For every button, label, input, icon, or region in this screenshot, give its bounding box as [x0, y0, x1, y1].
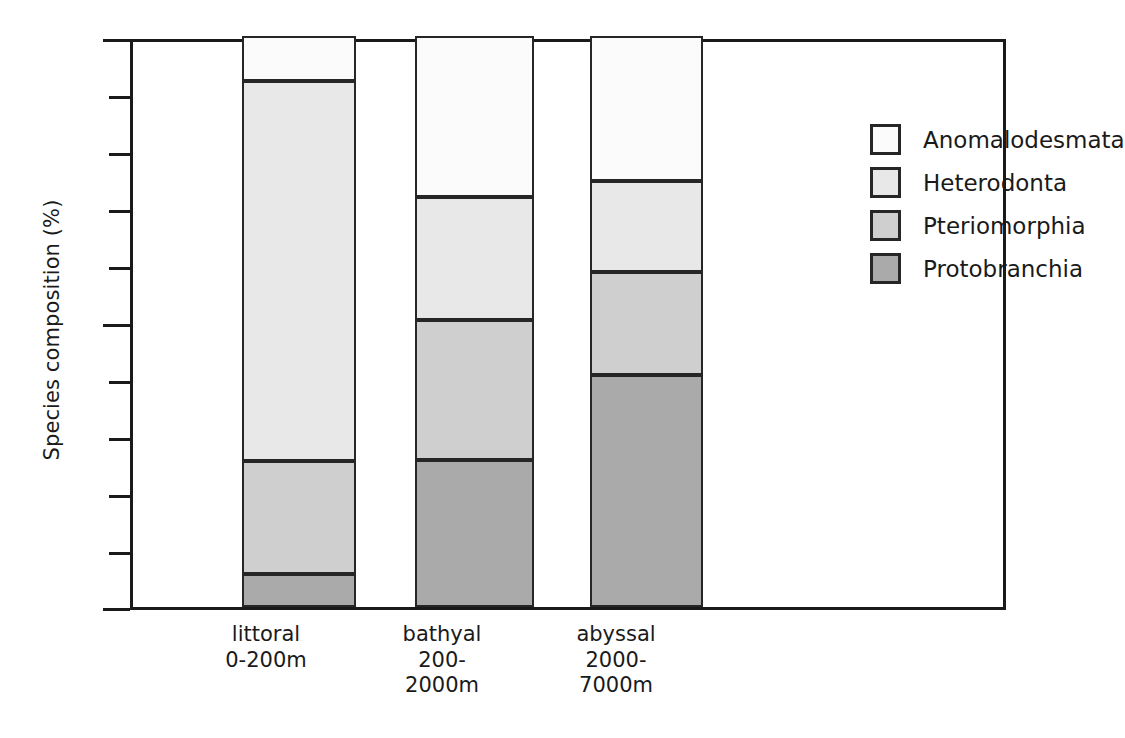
y-tick-30	[109, 438, 130, 441]
bar-littoral[interactable]	[242, 39, 356, 607]
y-tick-60	[109, 267, 130, 270]
y-tick-80	[109, 153, 130, 156]
legend: Anomalodesmata Heterodonta Pteriomorphia…	[870, 118, 1125, 290]
y-tick-10	[109, 552, 130, 555]
x-category-label-bathyal-line1: bathyal	[354, 622, 530, 648]
x-category-label-abyssal-line1: abyssal	[528, 622, 704, 648]
segment-abyssal-anomalodesmata[interactable]	[590, 36, 703, 181]
legend-item-pteriomorphia[interactable]: Pteriomorphia	[870, 204, 1125, 247]
x-category-label-bathyal-line2: 200-	[354, 648, 530, 674]
plot-area: Anomalodesmata Heterodonta Pteriomorphia…	[130, 39, 1006, 610]
segment-littoral-protobranchia[interactable]	[242, 574, 356, 607]
segment-littoral-anomalodesmata[interactable]	[242, 36, 356, 81]
bar-abyssal[interactable]	[590, 39, 703, 607]
x-category-label-bathyal: bathyal 200- 2000m	[354, 622, 530, 699]
legend-swatch-icon-heterodonta	[870, 167, 901, 198]
y-tick-90	[109, 96, 130, 99]
segment-bathyal-heterodonta[interactable]	[415, 197, 534, 320]
y-tick-50	[103, 324, 130, 327]
legend-item-heterodonta[interactable]: Heterodonta	[870, 161, 1125, 204]
x-category-label-abyssal-line3: 7000m	[528, 673, 704, 699]
x-category-label-littoral: littoral 0-200m	[178, 622, 354, 673]
segment-bathyal-pteriomorphia[interactable]	[415, 320, 534, 460]
segment-bathyal-anomalodesmata[interactable]	[415, 36, 534, 197]
legend-swatch-icon-protobranchia	[870, 253, 901, 284]
legend-item-anomalodesmata[interactable]: Anomalodesmata	[870, 118, 1125, 161]
legend-item-protobranchia[interactable]: Protobranchia	[870, 247, 1125, 290]
y-tick-0	[103, 608, 130, 611]
x-category-label-bathyal-line3: 2000m	[354, 673, 530, 699]
segment-littoral-pteriomorphia[interactable]	[242, 461, 356, 574]
y-tick-100	[103, 39, 130, 42]
legend-swatch-icon-pteriomorphia	[870, 210, 901, 241]
x-category-label-littoral-line2: 0-200m	[178, 648, 354, 674]
x-category-label-abyssal: abyssal 2000- 7000m	[528, 622, 704, 699]
x-category-label-littoral-line1: littoral	[178, 622, 354, 648]
segment-abyssal-heterodonta[interactable]	[590, 181, 703, 272]
y-tick-40	[109, 381, 130, 384]
bar-bathyal[interactable]	[415, 39, 534, 607]
legend-label-protobranchia: Protobranchia	[923, 256, 1083, 282]
segment-abyssal-protobranchia[interactable]	[590, 375, 703, 607]
y-tick-20	[109, 495, 130, 498]
segment-abyssal-pteriomorphia[interactable]	[590, 272, 703, 375]
legend-label-heterodonta: Heterodonta	[923, 170, 1067, 196]
segment-bathyal-protobranchia[interactable]	[415, 460, 534, 607]
y-axis-title: Species composition (%)	[40, 130, 64, 530]
legend-label-pteriomorphia: Pteriomorphia	[923, 213, 1086, 239]
legend-label-anomalodesmata: Anomalodesmata	[923, 127, 1125, 153]
segment-littoral-heterodonta[interactable]	[242, 81, 356, 461]
x-category-label-abyssal-line2: 2000-	[528, 648, 704, 674]
legend-swatch-icon-anomalodesmata	[870, 124, 901, 155]
y-tick-70	[109, 210, 130, 213]
